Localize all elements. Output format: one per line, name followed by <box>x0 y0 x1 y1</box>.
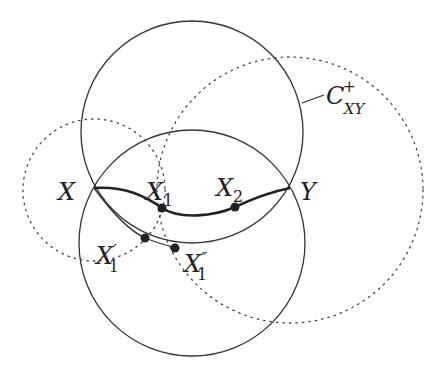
label-x1-double-prime: X″1 <box>182 249 207 284</box>
diagram-canvas: X Y X1 X2 X′1 X″1 C+XY <box>0 0 445 379</box>
label-x1-prime: X′1 <box>94 241 119 276</box>
label-x2: X2 <box>214 174 243 206</box>
label-y: Y <box>300 178 318 206</box>
point-x1-prime <box>141 234 150 243</box>
upper-circle-c-xy-plus <box>81 21 303 243</box>
path-x-to-y <box>94 188 290 216</box>
point-x1-double-prime <box>171 244 180 253</box>
c-label-leader <box>302 95 324 103</box>
label-c-xy-plus: C+XY <box>326 77 366 118</box>
label-x: X <box>56 178 76 206</box>
label-x1: X1 <box>144 178 173 210</box>
